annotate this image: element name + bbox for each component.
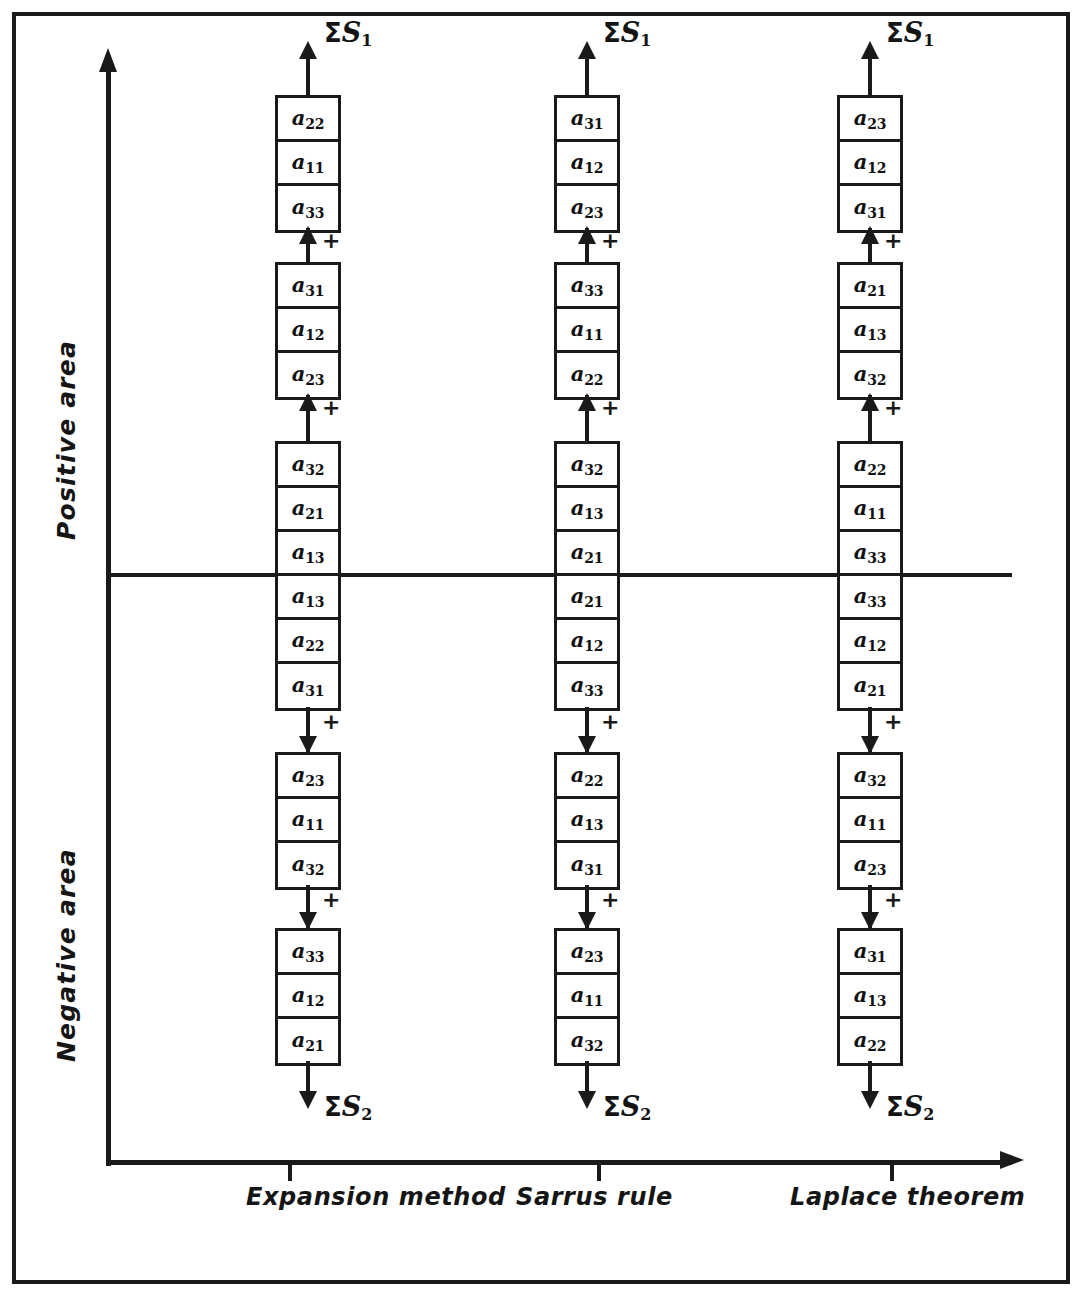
negative-term-block: a33a12a21 xyxy=(275,928,341,1066)
arrow-up-icon xyxy=(578,41,596,59)
plus-sign: + xyxy=(322,711,340,733)
term-label: a32 xyxy=(292,853,325,877)
term-cell: a33 xyxy=(840,532,900,576)
term-label: a32 xyxy=(854,363,887,387)
sum-label-bottom: ΣS2 xyxy=(324,1091,372,1124)
term-label: a31 xyxy=(292,674,325,698)
term-cell: a21 xyxy=(278,1019,338,1063)
term-cell: a23 xyxy=(840,843,900,887)
term-label: a21 xyxy=(571,585,604,609)
term-cell: a31 xyxy=(557,843,617,887)
term-cell: a11 xyxy=(278,799,338,843)
arrow-down-icon xyxy=(578,912,596,930)
term-cell: a21 xyxy=(557,576,617,620)
negative-term-block: a31a13a22 xyxy=(837,928,903,1066)
term-label: a12 xyxy=(854,151,887,175)
positive-term-block: a21a13a32 xyxy=(837,262,903,400)
term-cell: a22 xyxy=(278,620,338,664)
positive-term-block: a31a12a23 xyxy=(275,262,341,400)
term-label: a13 xyxy=(571,497,604,521)
term-cell: a21 xyxy=(557,532,617,576)
arrow-down-icon xyxy=(578,736,596,754)
term-cell: a32 xyxy=(557,444,617,488)
x-axis-arrow-icon xyxy=(1000,1151,1024,1169)
term-cell: a13 xyxy=(278,532,338,576)
plus-sign: + xyxy=(884,230,902,252)
term-label: a11 xyxy=(571,984,604,1008)
arrow-down-icon xyxy=(299,736,317,754)
term-cell: a12 xyxy=(557,142,617,186)
arrow-up-icon xyxy=(299,226,317,244)
arrow-up-icon xyxy=(578,226,596,244)
term-cell: a32 xyxy=(278,843,338,887)
term-cell: a13 xyxy=(557,488,617,532)
arrow-up-icon xyxy=(578,393,596,411)
term-label: a23 xyxy=(292,764,325,788)
arrow-down-icon xyxy=(299,912,317,930)
term-label: a13 xyxy=(292,585,325,609)
term-cell: a32 xyxy=(840,353,900,397)
term-cell: a23 xyxy=(278,755,338,799)
term-cell: a33 xyxy=(557,265,617,309)
term-label: a12 xyxy=(571,629,604,653)
term-label: a31 xyxy=(854,940,887,964)
x-axis-tick xyxy=(288,1163,292,1181)
plus-sign: + xyxy=(884,711,902,733)
term-label: a31 xyxy=(571,853,604,877)
arrow-down-icon xyxy=(861,912,879,930)
term-cell: a23 xyxy=(840,98,900,142)
negative-term-block: a23a11a32 xyxy=(275,752,341,890)
term-cell: a12 xyxy=(278,309,338,353)
term-label: a31 xyxy=(854,196,887,220)
term-cell: a11 xyxy=(840,488,900,532)
arrow-down-icon xyxy=(578,1091,596,1109)
term-label: a22 xyxy=(292,629,325,653)
term-cell: a33 xyxy=(557,664,617,708)
arrow-up-icon xyxy=(861,41,879,59)
term-label: a12 xyxy=(571,151,604,175)
joined-term-block: a32a13a21a21a12a33 xyxy=(554,441,620,711)
term-cell: a31 xyxy=(557,98,617,142)
term-cell: a11 xyxy=(557,975,617,1019)
term-cell: a12 xyxy=(278,975,338,1019)
arrow-down-icon xyxy=(299,1091,317,1109)
y-axis-label-negative-area: Negative area xyxy=(52,848,81,1062)
term-label: a33 xyxy=(854,541,887,565)
term-cell: a11 xyxy=(840,799,900,843)
term-label: a11 xyxy=(571,318,604,342)
term-label: a12 xyxy=(292,984,325,1008)
term-cell: a33 xyxy=(278,186,338,230)
plus-sign: + xyxy=(601,889,619,911)
term-label: a13 xyxy=(854,318,887,342)
joined-term-block: a32a21a13a13a22a31 xyxy=(275,441,341,711)
sum-label-bottom: ΣS2 xyxy=(603,1091,651,1124)
term-cell: a23 xyxy=(557,931,617,975)
negative-term-block: a23a11a32 xyxy=(554,928,620,1066)
term-label: a33 xyxy=(292,940,325,964)
term-cell: a21 xyxy=(278,488,338,532)
plus-sign: + xyxy=(884,397,902,419)
term-label: a21 xyxy=(571,541,604,565)
term-label: a13 xyxy=(854,984,887,1008)
term-label: a12 xyxy=(854,629,887,653)
sum-label-bottom: ΣS2 xyxy=(886,1091,934,1124)
term-cell: a31 xyxy=(840,931,900,975)
sum-label-top: ΣS1 xyxy=(603,17,651,50)
positive-term-block: a22a11a33 xyxy=(275,95,341,233)
term-label: a21 xyxy=(854,674,887,698)
term-label: a22 xyxy=(571,764,604,788)
term-label: a22 xyxy=(854,1029,887,1053)
term-label: a21 xyxy=(854,274,887,298)
term-label: a11 xyxy=(292,808,325,832)
term-label: a31 xyxy=(292,274,325,298)
term-label: a33 xyxy=(571,674,604,698)
positive-term-block: a31a12a23 xyxy=(554,95,620,233)
term-cell: a22 xyxy=(557,353,617,397)
term-cell: a21 xyxy=(840,265,900,309)
term-cell: a33 xyxy=(840,576,900,620)
term-label: a23 xyxy=(292,363,325,387)
term-label: a33 xyxy=(854,585,887,609)
term-label: a23 xyxy=(571,196,604,220)
negative-term-block: a32a11a23 xyxy=(837,752,903,890)
term-cell: a32 xyxy=(840,755,900,799)
